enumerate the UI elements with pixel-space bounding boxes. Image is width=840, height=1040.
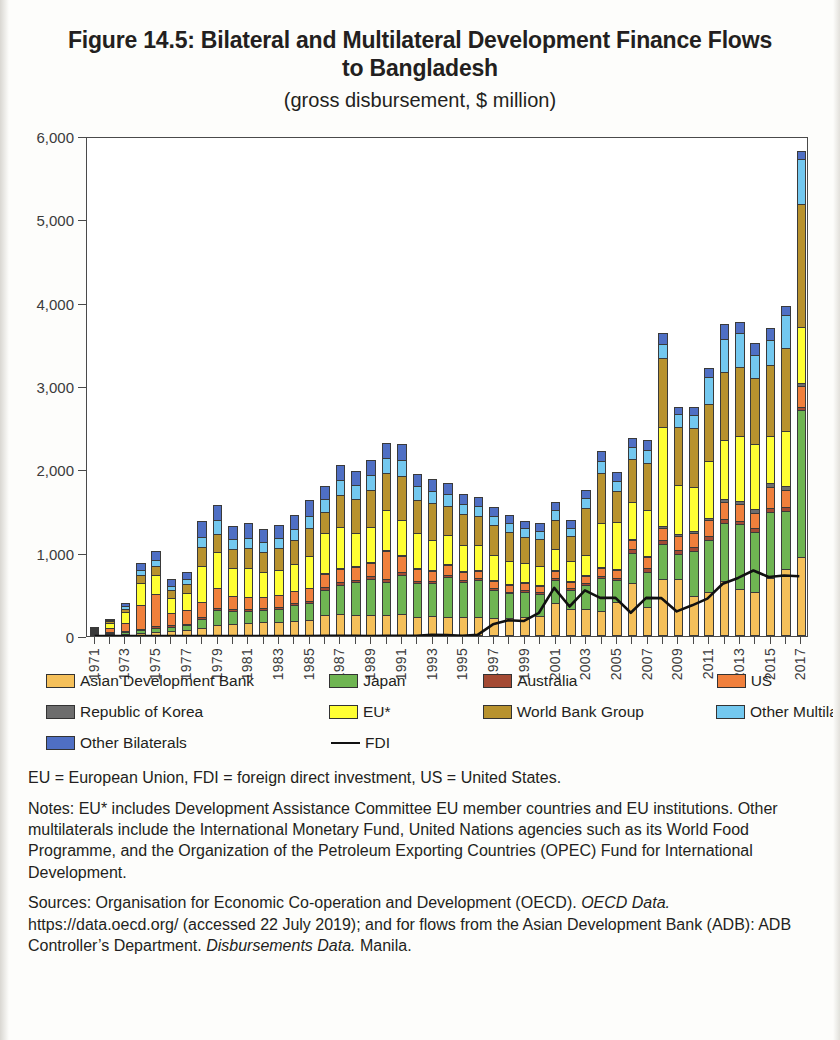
legend-item[interactable]: Republic of Korea <box>46 703 329 721</box>
x-axis-tick-mark <box>416 637 417 644</box>
x-axis-tick-mark <box>324 637 325 644</box>
legend-label: Japan <box>363 672 405 690</box>
x-axis-tick-mark <box>124 637 125 644</box>
sources-lead: Sources: Organisation for Economic Co-op… <box>28 894 581 911</box>
plot-frame <box>86 137 808 637</box>
x-axis-tick-mark <box>647 637 648 644</box>
legend-color-swatch <box>46 736 75 750</box>
figure-page: Figure 14.5: Bilateral and Multilateral … <box>0 0 840 1040</box>
y-axis-tick-label: 5,000 <box>4 212 74 229</box>
legend-label: Other Multilaterals <box>750 703 840 721</box>
y-axis-tick-label: 1,000 <box>4 545 74 562</box>
legend-item[interactable]: Other Bilaterals <box>46 734 331 752</box>
x-axis-tick-mark <box>232 637 233 644</box>
x-axis-tick-mark <box>309 637 310 644</box>
legend-item[interactable]: EU* <box>329 703 483 721</box>
figure-title: Figure 14.5: Bilateral and Multilateral … <box>60 26 780 82</box>
x-axis-tick-mark <box>785 637 786 644</box>
x-axis-tick-mark <box>386 637 387 644</box>
x-axis-tick-mark <box>109 637 110 644</box>
chart-area: 01,0002,0003,0004,0005,0006,000 19711973… <box>0 127 840 657</box>
x-axis-tick-mark <box>601 637 602 644</box>
x-axis-tick-mark <box>677 637 678 644</box>
legend-color-swatch <box>483 705 512 719</box>
x-axis-tick-mark <box>293 637 294 644</box>
legend-color-swatch <box>46 674 75 688</box>
legend-label: Other Bilaterals <box>80 734 187 752</box>
legend-label: FDI <box>365 734 390 752</box>
y-axis-tick-label: 4,000 <box>4 295 74 312</box>
x-axis-tick-mark <box>800 637 801 644</box>
x-axis-tick-mark <box>170 637 171 644</box>
x-axis-tick-mark <box>539 637 540 644</box>
x-axis-tick-mark <box>155 637 156 644</box>
legend-item[interactable]: FDI <box>331 734 486 752</box>
x-axis-tick-mark <box>585 637 586 644</box>
y-axis-tick-mark <box>78 470 86 471</box>
legend-color-swatch <box>717 674 746 688</box>
legend-label: World Bank Group <box>517 703 644 721</box>
legend-label: Republic of Korea <box>80 703 203 721</box>
legend-color-swatch <box>329 705 358 719</box>
x-axis-tick-mark <box>186 637 187 644</box>
chart-legend: Asian Development BankJapanAustraliaUSRe… <box>0 665 840 765</box>
figure-notes: EU = European Union, FDI = foreign direc… <box>0 765 840 957</box>
x-axis-tick-mark <box>432 637 433 644</box>
x-axis-tick-mark <box>493 637 494 644</box>
legend-row: Republic of KoreaEU*World Bank GroupOthe… <box>46 696 816 727</box>
x-axis-tick-mark <box>616 637 617 644</box>
sources-italic-disb: Disbursements Data. <box>206 937 355 954</box>
x-axis-tick-mark <box>478 637 479 644</box>
y-axis-tick-label: 2,000 <box>4 462 74 479</box>
x-axis-tick-mark <box>462 637 463 644</box>
x-axis-tick-mark <box>555 637 556 644</box>
y-axis-tick-mark <box>78 387 86 388</box>
x-axis-tick-mark <box>355 637 356 644</box>
x-axis-tick-mark <box>401 637 402 644</box>
x-axis-tick-mark <box>708 637 709 644</box>
y-axis-tick-label: 3,000 <box>4 379 74 396</box>
legend-label: Australia <box>517 672 577 690</box>
x-axis-tick-mark <box>524 637 525 644</box>
legend-label: Asian Development Bank <box>80 672 254 690</box>
y-axis-tick-mark <box>78 304 86 305</box>
y-axis-tick-label: 6,000 <box>4 129 74 146</box>
x-axis-tick-mark <box>201 637 202 644</box>
legend-row: Asian Development BankJapanAustraliaUS <box>46 665 816 696</box>
x-axis-tick-mark <box>739 637 740 644</box>
notes-note: Notes: EU* includes Development Assistan… <box>28 798 810 884</box>
x-axis-tick-mark <box>263 637 264 644</box>
x-axis-tick-mark <box>94 637 95 644</box>
legend-item[interactable]: Australia <box>483 672 716 690</box>
x-axis-tick-mark <box>570 637 571 644</box>
x-axis-tick-mark <box>724 637 725 644</box>
fdi-line <box>95 571 800 637</box>
x-axis-tick-mark <box>339 637 340 644</box>
legend-color-swatch <box>716 705 745 719</box>
abbreviations-note: EU = European Union, FDI = foreign direc… <box>28 767 810 788</box>
legend-color-swatch <box>329 674 358 688</box>
legend-item[interactable]: Other Multilaterals <box>716 703 816 721</box>
legend-item[interactable]: US <box>717 672 816 690</box>
x-axis-tick-mark <box>447 637 448 644</box>
legend-item[interactable]: World Bank Group <box>483 703 716 721</box>
x-axis-tick-mark <box>217 637 218 644</box>
y-axis-tick-mark <box>78 137 86 138</box>
x-axis-tick-mark <box>770 637 771 644</box>
y-axis-tick-mark <box>78 637 86 638</box>
x-axis-tick-mark <box>370 637 371 644</box>
sources-italic-oecd: OECD Data. <box>581 894 670 911</box>
y-axis-tick-label: 0 <box>4 629 74 646</box>
legend-label: EU* <box>363 703 391 721</box>
x-axis-tick-mark <box>631 637 632 644</box>
legend-row: Other BilateralsFDI <box>46 727 816 758</box>
x-axis-tick-mark <box>508 637 509 644</box>
legend-color-swatch <box>46 705 75 719</box>
legend-color-swatch <box>483 674 512 688</box>
legend-label: US <box>751 672 773 690</box>
x-axis-tick-mark <box>662 637 663 644</box>
x-axis-tick-mark <box>754 637 755 644</box>
x-axis-tick-mark <box>278 637 279 644</box>
legend-item[interactable]: Japan <box>329 672 483 690</box>
legend-item[interactable]: Asian Development Bank <box>46 672 329 690</box>
